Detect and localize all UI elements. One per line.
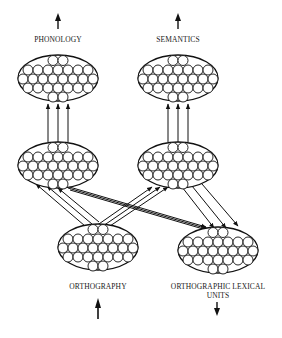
- pool-orthographic-lexical-units: [178, 227, 258, 274]
- pool-orthography: [58, 224, 138, 271]
- pool-semantics: [138, 55, 218, 102]
- connection-hidden-right-to-semantics: [168, 104, 188, 142]
- network-diagram: PHONOLOGY SEMANTICS ORTHOGRAPHY ORTHOGRA…: [0, 0, 282, 338]
- label-orthography: ORTHOGRAPHY: [69, 282, 127, 291]
- connection-hidden-right-to-lexical-units: [182, 184, 238, 228]
- arrow-down-icon: [214, 302, 220, 316]
- arrow-up-icon: [95, 298, 101, 319]
- connection-orthography-to-hidden-left: [36, 184, 99, 226]
- label-orthographic-lexical-units-line1: ORTHOGRAPHIC LEXICAL: [171, 282, 266, 291]
- label-phonology: PHONOLOGY: [34, 35, 82, 44]
- arrow-up-icon: [55, 13, 61, 29]
- arrow-up-icon: [175, 13, 181, 29]
- label-orthographic-lexical-units-line2: UNITS: [207, 291, 230, 300]
- label-semantics: SEMANTICS: [156, 35, 199, 44]
- pool-phonology: [18, 55, 98, 102]
- pool-hidden-right: [138, 142, 218, 189]
- pool-hidden-left: [18, 142, 98, 189]
- connection-hidden-left-to-phonology: [48, 104, 68, 142]
